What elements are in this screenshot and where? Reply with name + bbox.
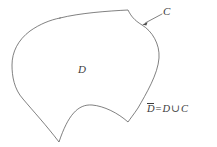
c-label-leader-line (146, 14, 163, 23)
boundary-curve-label-C: C (163, 6, 170, 17)
closure-d-bar-symbol: D (147, 104, 155, 115)
closure-equals-sign: = (155, 103, 163, 114)
closure-equation-label: D=D∪C (147, 104, 188, 115)
region-boundary-curve (12, 10, 159, 142)
region-diagram-svg (0, 0, 217, 147)
closure-union-operator: ∪ (170, 103, 181, 114)
c-label-arrowhead-icon (142, 22, 147, 25)
figure-canvas: D C D=D∪C (0, 0, 217, 147)
closure-region-symbol: D (163, 103, 171, 114)
region-label-D: D (78, 64, 86, 75)
closure-curve-symbol: C (181, 103, 188, 114)
